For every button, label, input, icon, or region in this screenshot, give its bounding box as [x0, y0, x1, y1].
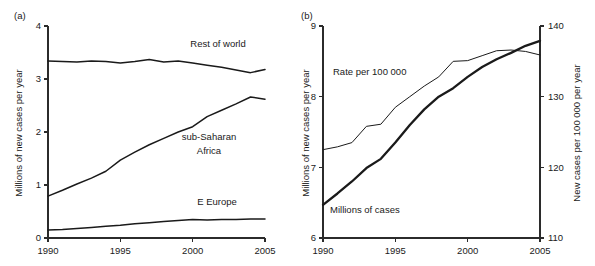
panel-b-y-ticks: 6789	[311, 20, 323, 243]
panel-b-ytick-7: 7	[311, 162, 316, 173]
panel-b-xtick-2005: 2005	[529, 245, 550, 256]
panel-b-ytick-8: 8	[311, 91, 316, 102]
panel-b-x-ticks: 1990199520002005	[312, 238, 550, 256]
panel-a-y-axis-title: Millions of new cases per year	[13, 69, 24, 196]
series-line-rate-per-100-000	[323, 50, 540, 150]
panel-b-xtick-2000: 2000	[457, 245, 478, 256]
panel-b-y2tick-130: 130	[548, 91, 564, 102]
panel-b-y2tick-140: 140	[548, 20, 564, 31]
panel-a-xtick-1995: 1995	[110, 245, 131, 256]
panel-b-xtick-1995: 1995	[385, 245, 406, 256]
panel-a-x-ticks: 1990199520002005	[37, 238, 275, 256]
chart-panel-a: (a) Millions of new cases per year 01234…	[0, 0, 297, 266]
panel-b-label: (b)	[301, 10, 313, 21]
panel-a-ytick-3: 3	[36, 73, 41, 84]
series-line-sub-saharan-africa	[48, 97, 265, 196]
panel-b-y2tick-110: 110	[548, 232, 563, 243]
figure-container: (a) Millions of new cases per year 01234…	[0, 0, 595, 266]
panel-b-xtick-1990: 1990	[312, 245, 333, 256]
panel-a-y-ticks: 01234	[36, 20, 48, 243]
panel-a-ytick-4: 4	[36, 20, 41, 31]
series-label-millions-of-cases: Millions of cases	[330, 204, 400, 215]
panel-a-xtick-2000: 2000	[182, 245, 203, 256]
series-label-rest-of-world: Rest of world	[190, 38, 245, 49]
panel-b-y2-axis-title: New cases per 100 000 per year	[571, 64, 582, 201]
panel-b-y-axis-title: Millions of new cases per year	[300, 69, 311, 196]
panel-a-svg: (a) Millions of new cases per year 01234…	[0, 0, 297, 266]
panel-a-xtick-2005: 2005	[254, 245, 275, 256]
series-line-rest-of-world	[48, 59, 265, 72]
panel-a-xtick-1990: 1990	[37, 245, 58, 256]
panel-b-ytick-6: 6	[311, 232, 316, 243]
series-label-africa: Africa	[197, 145, 222, 156]
panel-a-label: (a)	[14, 10, 26, 21]
panel-a-ytick-2: 2	[36, 126, 41, 137]
panel-a-ytick-0: 0	[36, 232, 41, 243]
series-line-e-europe	[48, 219, 265, 230]
chart-panel-b: (b) Millions of new cases per year New c…	[297, 0, 595, 266]
series-label-e-europe: E Europe	[197, 196, 237, 207]
panel-b-y2-ticks: 110120130140	[540, 20, 564, 243]
panel-b-y2tick-120: 120	[548, 162, 564, 173]
series-label-rate-per-100000: Rate per 100 000	[333, 66, 406, 77]
panel-a-ytick-1: 1	[36, 179, 41, 190]
series-label-sub-saharan: sub-Saharan	[182, 131, 236, 142]
panel-b-svg: (b) Millions of new cases per year New c…	[297, 0, 595, 266]
panel-b-ytick-9: 9	[311, 20, 316, 31]
